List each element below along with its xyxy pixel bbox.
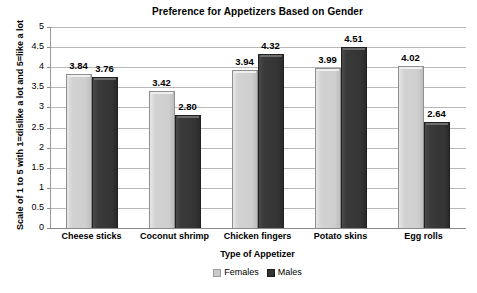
bar-top-highlight xyxy=(177,116,199,118)
bar-females-chicken-fingers xyxy=(232,70,258,228)
bar-value-label: 4.51 xyxy=(334,34,374,44)
legend-item-females[interactable]: Females xyxy=(213,268,259,277)
bar-top-highlight xyxy=(317,69,339,71)
bar-value-label: 4.32 xyxy=(251,41,291,51)
legend: FemalesMales xyxy=(50,268,465,277)
bar-value-label: 4.02 xyxy=(391,53,431,63)
bar-top-highlight xyxy=(343,48,365,50)
y-tick-label: 1.5 xyxy=(4,163,44,172)
legend-label: Males xyxy=(278,268,302,277)
bar-males-coconut-shrimp xyxy=(175,115,201,228)
bar-females-egg-rolls xyxy=(398,66,424,228)
bar-value-label: 2.80 xyxy=(168,102,208,112)
x-axis-title: Type of Appetizer xyxy=(50,249,465,259)
y-tick-label: 1 xyxy=(4,183,44,192)
legend-swatch-icon xyxy=(213,269,221,277)
y-tick-mark xyxy=(47,228,51,229)
bar-males-chicken-fingers xyxy=(258,54,284,228)
bar-value-label: 3.42 xyxy=(142,78,182,88)
y-tick-label: 4 xyxy=(4,62,44,71)
bar-males-cheese-sticks xyxy=(92,77,118,228)
chart-title: Preference for Appetizers Based on Gende… xyxy=(50,6,465,17)
bar-value-label: 3.94 xyxy=(225,57,265,67)
y-tick-label: 3 xyxy=(4,102,44,111)
y-tick-label: 0 xyxy=(4,223,44,232)
y-tick-label: 2 xyxy=(4,143,44,152)
bar-value-label: 2.64 xyxy=(417,109,457,119)
x-axis-label-egg-rolls: Egg rolls xyxy=(374,231,474,241)
bar-females-potato-skins xyxy=(315,68,341,228)
bar-top-highlight xyxy=(234,71,256,73)
bar-value-label: 3.76 xyxy=(85,64,125,74)
y-tick-label: 4.5 xyxy=(4,42,44,51)
legend-swatch-icon xyxy=(267,269,275,277)
legend-item-males[interactable]: Males xyxy=(267,268,302,277)
bar-top-highlight xyxy=(426,123,448,125)
bar-value-label: 3.99 xyxy=(308,55,348,65)
bar-males-potato-skins xyxy=(341,47,367,228)
bar-females-cheese-sticks xyxy=(66,74,92,228)
bar-top-highlight xyxy=(94,78,116,80)
bar-chart: Preference for Appetizers Based on Gende… xyxy=(0,0,477,293)
y-tick-label: 3.5 xyxy=(4,82,44,91)
legend-label: Females xyxy=(224,268,259,277)
y-tick-label: 0.5 xyxy=(4,203,44,212)
gridline xyxy=(51,228,466,229)
bar-top-highlight xyxy=(68,75,90,77)
bar-top-highlight xyxy=(400,67,422,69)
y-tick-label: 5 xyxy=(4,22,44,31)
y-tick-label: 2.5 xyxy=(4,123,44,132)
bar-males-egg-rolls xyxy=(424,122,450,228)
bar-top-highlight xyxy=(151,92,173,94)
